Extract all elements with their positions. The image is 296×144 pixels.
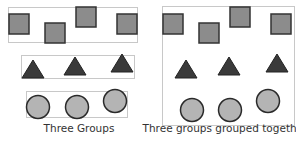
left-panel: Three Groups	[9, 7, 138, 134]
triangle-shape	[175, 60, 197, 78]
square-shape	[163, 14, 183, 34]
circle-shape	[257, 90, 280, 113]
triangle-shape	[64, 57, 86, 75]
square-shape	[271, 14, 291, 34]
square-shape	[45, 23, 65, 43]
triangle-shape	[266, 54, 288, 72]
triangle-shape	[111, 54, 133, 72]
left-circles-group	[27, 90, 128, 119]
grouping-diagram: Three Groups Three groups grouped togeth…	[0, 0, 296, 144]
right-squares	[163, 7, 291, 43]
square-shape	[9, 14, 29, 34]
right-panel: Three groups grouped together	[142, 7, 296, 135]
circle-shape	[181, 99, 204, 122]
circle-shape	[27, 96, 50, 119]
square-shape	[76, 7, 96, 27]
circle-shape	[219, 99, 242, 122]
right-caption: Three groups grouped together	[142, 122, 296, 134]
right-circles	[181, 90, 280, 122]
circle-shape	[104, 90, 127, 113]
square-shape	[117, 14, 137, 34]
left-caption: Three Groups	[43, 122, 115, 134]
circle-shape	[66, 96, 89, 119]
left-triangles-group	[22, 54, 135, 79]
triangle-shape	[218, 57, 240, 75]
right-triangles	[175, 54, 288, 78]
left-squares-group	[9, 7, 138, 43]
square-shape	[199, 23, 219, 43]
square-shape	[230, 7, 250, 27]
triangle-shape	[22, 60, 44, 78]
